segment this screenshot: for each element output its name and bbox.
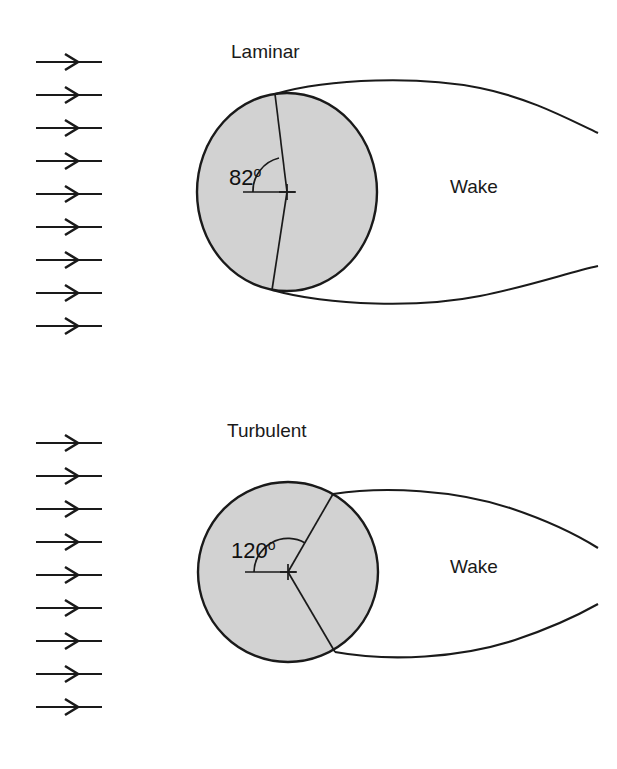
- panel-title-turbulent: Turbulent: [227, 420, 307, 441]
- inflow-arrow-icon: [36, 633, 102, 649]
- diagram-canvas: 82o Laminar Wake: [0, 0, 617, 769]
- inflow-arrow-icon: [36, 153, 102, 169]
- panel-turbulent: 120o Turbulent Wake: [36, 420, 598, 715]
- wake-boundary-lower-turbulent: [335, 604, 598, 657]
- inflow-arrow-icon: [36, 120, 102, 136]
- inflow-arrow-icon: [36, 600, 102, 616]
- inflow-arrow-icon: [36, 252, 102, 268]
- inflow-arrow-icon: [36, 285, 102, 301]
- inflow-arrow-icon: [36, 186, 102, 202]
- inflow-arrow-icon: [36, 435, 102, 451]
- angle-value-turbulent: 120: [231, 538, 268, 563]
- inflow-arrow-icon: [36, 567, 102, 583]
- inflow-arrow-icon: [36, 468, 102, 484]
- panel-laminar: 82o Laminar Wake: [36, 41, 598, 334]
- inflow-arrow-icon: [36, 666, 102, 682]
- inflow-arrow-icon: [36, 534, 102, 550]
- wake-label-laminar: Wake: [450, 176, 498, 197]
- inflow-arrow-group-turbulent: [36, 435, 102, 715]
- inflow-arrow-icon: [36, 87, 102, 103]
- flow-separation-figure: 82o Laminar Wake: [0, 0, 617, 769]
- angle-degree-symbol-turbulent: o: [268, 537, 276, 553]
- angle-value-laminar: 82: [229, 165, 253, 190]
- inflow-arrow-icon: [36, 318, 102, 334]
- inflow-arrow-icon: [36, 219, 102, 235]
- inflow-arrow-icon: [36, 699, 102, 715]
- inflow-arrow-icon: [36, 501, 102, 517]
- panel-title-laminar: Laminar: [231, 41, 300, 62]
- inflow-arrow-icon: [36, 54, 102, 70]
- inflow-arrow-group-laminar: [36, 54, 102, 334]
- wake-label-turbulent: Wake: [450, 556, 498, 577]
- angle-degree-symbol-laminar: o: [253, 164, 261, 180]
